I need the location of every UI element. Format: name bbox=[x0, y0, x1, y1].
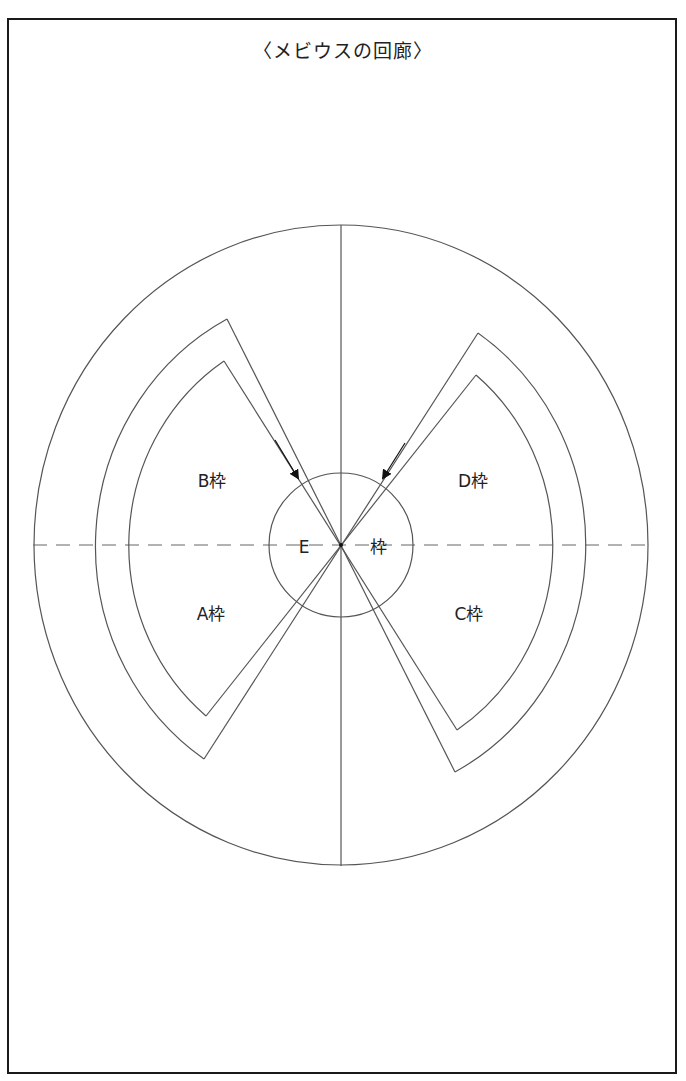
wedge-dc-outer-boundary bbox=[455, 333, 586, 772]
label-a-frame: A枠 bbox=[197, 604, 226, 624]
label-c-frame: C枠 bbox=[455, 604, 484, 624]
label-e-left: E bbox=[299, 537, 310, 557]
label-d-frame: D枠 bbox=[458, 471, 488, 491]
label-e-right: 枠 bbox=[370, 537, 387, 557]
arrow-b-to-e bbox=[275, 440, 298, 478]
mobius-corridor-diagram: B枠 D枠 A枠 C枠 E 枠 bbox=[0, 0, 686, 1081]
wedge-ba-outer-boundary bbox=[95, 319, 227, 759]
wedge-dc-inner-boundary bbox=[457, 375, 553, 730]
center-point bbox=[339, 543, 343, 547]
arrow-d-to-e bbox=[383, 443, 405, 478]
wedge-ba-inner-boundary bbox=[129, 361, 224, 716]
label-b-frame: B枠 bbox=[198, 471, 227, 491]
